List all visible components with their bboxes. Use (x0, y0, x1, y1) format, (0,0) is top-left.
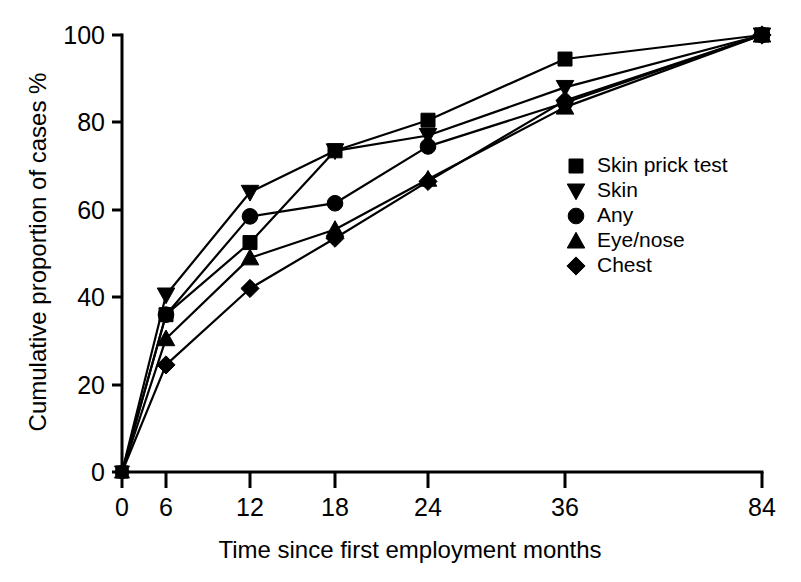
series-skin (115, 28, 771, 480)
data-point (242, 209, 258, 225)
legend-marker-diamond (567, 257, 585, 275)
y-tick-label-60: 60 (77, 196, 105, 224)
y-tick-label-40: 40 (77, 283, 105, 311)
y-axis-title: Cumulative proportion of cases % (24, 73, 51, 432)
x-tick-label-0: 0 (115, 493, 129, 521)
series-skin-prick-test (116, 28, 769, 478)
data-point (420, 139, 436, 155)
series-layer (114, 26, 771, 480)
x-tick-label-6: 6 (159, 493, 173, 521)
legend-label: Any (597, 203, 634, 226)
chart-svg: 100 80 60 40 20 0 0 6 12 18 24 36 84 (0, 0, 801, 582)
x-tick-marks (122, 472, 762, 488)
legend-label: Skin prick test (597, 153, 728, 176)
y-tick-label-100: 100 (63, 21, 105, 49)
series-chest (114, 26, 771, 480)
y-tick-label-80: 80 (77, 108, 105, 136)
series-eye-nose (115, 26, 771, 478)
series-line (122, 35, 762, 472)
legend-marker-square (569, 159, 583, 173)
legend-label: Chest (597, 253, 652, 276)
data-point (327, 195, 343, 211)
cumulative-cases-chart: 100 80 60 40 20 0 0 6 12 18 24 36 84 (0, 0, 801, 582)
data-point (243, 236, 257, 250)
legend-marker-circle (568, 208, 584, 224)
x-tick-label-36: 36 (551, 493, 579, 521)
x-tick-label-12: 12 (236, 493, 264, 521)
legend-label: Skin (597, 178, 638, 201)
data-point (421, 113, 435, 127)
legend-marker-triangle-down (567, 184, 585, 200)
x-tick-label-84: 84 (748, 493, 776, 521)
chart-legend: Skin prick testSkinAnyEye/noseChest (567, 153, 728, 276)
legend-marker-triangle-up (567, 232, 585, 248)
x-tick-label-24: 24 (414, 493, 442, 521)
data-point (558, 52, 572, 66)
x-axis-title: Time since first employment months (218, 536, 601, 563)
x-tick-labels: 0 6 12 18 24 36 84 (115, 493, 776, 521)
y-tick-labels: 100 80 60 40 20 0 (63, 21, 105, 486)
y-tick-label-20: 20 (77, 371, 105, 399)
legend-label: Eye/nose (597, 228, 685, 251)
x-tick-label-18: 18 (321, 493, 349, 521)
data-point (157, 288, 175, 304)
series-any (115, 27, 770, 479)
y-tick-label-0: 0 (91, 458, 105, 486)
data-point (158, 307, 174, 323)
